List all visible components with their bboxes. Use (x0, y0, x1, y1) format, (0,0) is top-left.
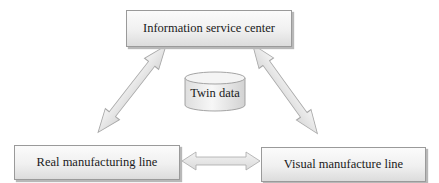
double-arrow-top-right (245, 39, 324, 139)
real-manufacturing-line-label: Real manufacturing line (37, 155, 158, 170)
double-arrow-top-left (91, 40, 173, 138)
visual-manufacture-line-box: Visual manufacture line (261, 147, 426, 182)
double-arrow-horizontal (182, 152, 260, 170)
real-manufacturing-line-box: Real manufacturing line (14, 145, 180, 180)
twin-data-label: Twin data (190, 86, 239, 101)
twin-system-diagram: Information service center Twin data Rea… (0, 0, 439, 183)
information-service-center-box: Information service center (126, 10, 292, 47)
visual-manufacture-line-label: Visual manufacture line (284, 157, 403, 172)
twin-data-label-wrap: Twin data (184, 82, 246, 104)
information-service-center-label: Information service center (143, 21, 275, 36)
